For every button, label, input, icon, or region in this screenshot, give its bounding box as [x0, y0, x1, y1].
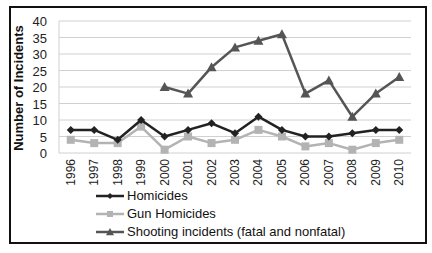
y-tick-label: 15	[33, 97, 47, 112]
triangle-marker	[394, 72, 404, 81]
x-tick-label: 1997	[87, 159, 101, 186]
legend-label: Gun Homicides	[127, 206, 216, 221]
y-tick-label: 5	[40, 130, 47, 145]
x-tick-label: 2010	[392, 159, 406, 186]
square-marker	[161, 146, 169, 154]
diamond-marker	[372, 126, 380, 134]
y-tick-label: 10	[33, 113, 47, 128]
x-tick-label: 1996	[64, 159, 78, 186]
diamond-marker	[90, 126, 98, 134]
diamond-marker	[67, 126, 75, 134]
legend-item: Shooting incidents (fatal and nonfatal)	[96, 224, 345, 239]
diamond-marker	[395, 126, 403, 134]
x-tick-label: 2004	[251, 159, 265, 186]
line-chart: 0510152025303540 Number of Incidents 199…	[0, 0, 432, 253]
x-tick-label: 2003	[228, 159, 242, 186]
y-tick-label: 30	[33, 47, 47, 62]
legend-item: Gun Homicides	[96, 206, 216, 221]
series-shooting-incidents-fatal-and-nonfatal	[160, 29, 405, 121]
y-axis-label: Number of Incidents	[11, 25, 26, 151]
x-tick-label: 2000	[158, 159, 172, 186]
x-tick-label: 2001	[181, 159, 195, 186]
x-tick-label: 2008	[345, 159, 359, 186]
square-marker	[395, 136, 403, 144]
square-marker	[372, 139, 380, 147]
y-tick-label: 40	[33, 14, 47, 29]
triangle-marker	[324, 75, 334, 84]
square-marker	[301, 142, 309, 150]
x-axis-ticks: 1996199719981999200020012002200320042005…	[64, 159, 407, 186]
x-tick-label: 2009	[369, 159, 383, 186]
data-series	[67, 29, 405, 154]
x-tick-label: 2006	[298, 159, 312, 186]
x-tick-label: 2007	[322, 159, 336, 186]
square-marker	[67, 136, 75, 144]
y-tick-label: 35	[33, 31, 47, 46]
legend-label: Homicides	[127, 188, 188, 203]
triangle-marker	[300, 89, 310, 98]
square-marker	[254, 126, 262, 134]
y-tick-label: 0	[40, 146, 47, 161]
square-marker	[208, 139, 216, 147]
square-marker	[348, 146, 356, 154]
x-tick-label: 2005	[275, 159, 289, 186]
legend-label: Shooting incidents (fatal and nonfatal)	[127, 224, 345, 239]
x-tick-label: 1999	[134, 159, 148, 186]
triangle-marker	[277, 29, 287, 38]
legend-item: Homicides	[96, 188, 188, 203]
y-axis-ticks: 0510152025303540	[33, 14, 47, 161]
legend: HomicidesGun HomicidesShooting incidents…	[96, 188, 345, 239]
diamond-marker	[107, 193, 113, 199]
diamond-marker	[301, 133, 309, 141]
square-marker	[107, 211, 113, 217]
x-tick-label: 2002	[205, 159, 219, 186]
y-tick-label: 20	[33, 80, 47, 95]
y-tick-label: 25	[33, 64, 47, 79]
square-marker	[90, 139, 98, 147]
x-tick-label: 1998	[111, 159, 125, 186]
